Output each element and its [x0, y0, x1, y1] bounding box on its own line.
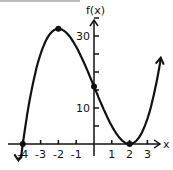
y-tick-label: 10 — [76, 102, 90, 115]
x-tick-label: -2 — [53, 148, 64, 161]
data-point — [127, 141, 133, 147]
x-tick-label: 3 — [144, 148, 151, 161]
y-axis-label: f(x) — [86, 4, 105, 17]
x-axis-label: x — [163, 138, 170, 151]
x-tick-label: 2 — [126, 148, 133, 161]
function-graph: -4-3-2-11231030 f(x) x — [0, 0, 173, 170]
data-point — [20, 141, 26, 147]
key-points — [20, 26, 133, 147]
y-tick-label: 30 — [76, 30, 90, 43]
data-point — [91, 83, 97, 89]
x-tick-label: 1 — [108, 148, 115, 161]
x-tick-label: -3 — [35, 148, 46, 161]
x-tick-label: -1 — [71, 148, 82, 161]
curve — [14, 29, 163, 161]
data-point — [55, 26, 61, 32]
